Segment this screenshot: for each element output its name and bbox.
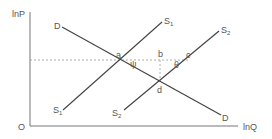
point-b-label: b: [158, 49, 163, 59]
angle-theta-label: θ: [174, 60, 179, 70]
point-a-label: a: [116, 50, 121, 60]
point-d-label: d: [157, 85, 162, 95]
demand-label-bottom: D: [222, 113, 229, 123]
s1-label-bottom: S1: [53, 105, 63, 116]
x-axis-label: lnQ: [243, 122, 257, 132]
demand-label-top: D: [54, 21, 61, 31]
s2-label-top: S2: [221, 25, 231, 36]
y-axis-label: lnP: [12, 9, 25, 19]
angle-psi-label: ψ: [130, 59, 136, 69]
point-c-label: c: [186, 50, 191, 60]
supply-demand-diagram: lnP lnQ O D D S1 S1 S2 S2 a b c d ψ θ: [0, 0, 272, 139]
origin-label: O: [18, 122, 25, 132]
s2-label-bottom: S2: [112, 108, 122, 119]
s1-label-top: S1: [164, 16, 174, 27]
